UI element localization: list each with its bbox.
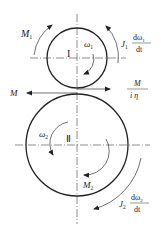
j1-frac-den: dt bbox=[136, 45, 143, 54]
j2-frac-num: dω2 bbox=[131, 193, 143, 203]
j1-frac-num: dω1 bbox=[133, 33, 145, 43]
j2-frac-den: dt bbox=[134, 205, 141, 214]
gear1-roman-label: I bbox=[67, 48, 70, 59]
contact-force-left-label: M bbox=[9, 88, 18, 98]
omega2-label: ω2 bbox=[39, 129, 48, 140]
gear-diagram: M1 I ω1 J1 dω1 dt M M i η ω2 Ⅱ M2 J2 dω2… bbox=[0, 0, 161, 233]
gear2-roman-label: Ⅱ bbox=[66, 133, 71, 144]
j1-label: J1 bbox=[121, 39, 128, 50]
m2-arrow-icon bbox=[84, 139, 109, 175]
m2-label: M2 bbox=[82, 180, 94, 191]
contact-frac-num: M bbox=[133, 79, 142, 88]
contact-frac-den: i η bbox=[130, 91, 138, 100]
m1-label: M1 bbox=[20, 28, 32, 40]
omega1-arrow-icon bbox=[84, 54, 94, 74]
j1-arrow-icon bbox=[106, 26, 118, 63]
j2-label: J2 bbox=[119, 199, 126, 210]
m1-arrow-icon bbox=[34, 25, 52, 55]
omega1-label: ω1 bbox=[84, 39, 93, 50]
